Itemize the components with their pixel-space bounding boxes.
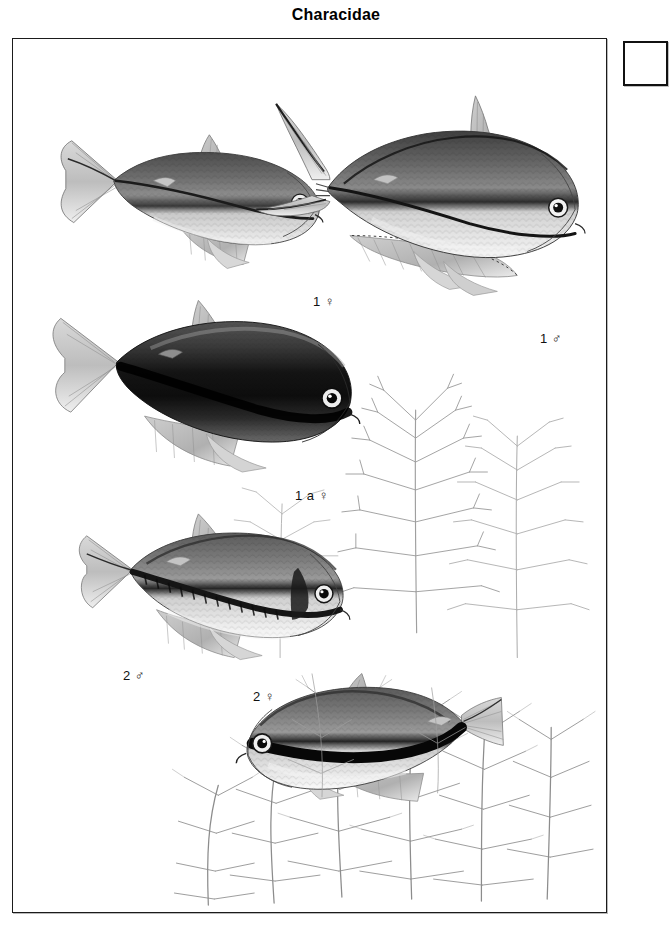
fish-2-female xyxy=(236,674,503,802)
figure-label-1-male: 1 ♂ xyxy=(540,331,562,346)
fish-2-male xyxy=(79,514,350,660)
fish-1a-female xyxy=(53,300,360,472)
plate-artwork xyxy=(13,39,606,912)
fish-1-female xyxy=(61,135,323,269)
figure-label-1a-female: 1 a ♀ xyxy=(295,488,329,503)
corner-index-box[interactable] xyxy=(623,41,668,86)
figure-label-2-male: 2 ♂ xyxy=(123,668,145,683)
plate-frame: 1 ♀ 1 ♂ 1 a ♀ 2 ♂ 2 ♀ xyxy=(12,38,607,913)
figure-label-2-female: 2 ♀ xyxy=(253,689,275,704)
page-title: Characidae xyxy=(0,6,672,24)
figure-label-1-female: 1 ♀ xyxy=(313,294,335,309)
illustration-plate: Characidae xyxy=(0,0,672,929)
